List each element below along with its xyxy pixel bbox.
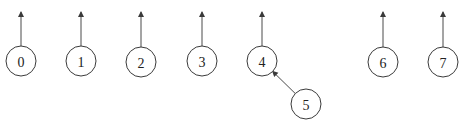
node-label: 6 [380,56,387,71]
node-label: 7 [440,56,447,71]
nodes-layer: 01234567 [6,46,458,119]
node-2: 2 [126,47,156,77]
edge-5-to-4 [273,71,296,93]
node-3: 3 [187,46,217,76]
node-label: 4 [259,55,266,70]
node-label: 3 [199,55,206,70]
node-1: 1 [66,46,96,76]
node-label: 2 [138,56,145,71]
node-4: 4 [247,46,277,76]
node-label: 1 [78,55,85,70]
node-0: 0 [6,46,36,76]
node-5: 5 [291,89,321,119]
node-6: 6 [368,47,398,77]
node-label: 5 [303,98,310,113]
diagram-canvas: 01234567 [0,0,466,128]
node-label: 0 [18,55,25,70]
node-7: 7 [428,47,458,77]
